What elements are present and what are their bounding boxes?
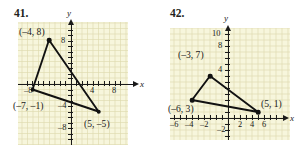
vertex-point-41 [30, 87, 35, 92]
vertex-label-42: (–6, 3) [168, 104, 194, 114]
vertex-point-42 [190, 98, 195, 103]
vertex-label-42: (–3, 7) [178, 50, 204, 60]
vertex-point-41 [47, 38, 52, 43]
vertex-label-42: (5, 1) [261, 99, 282, 109]
problem-42: 42. [154, 0, 308, 155]
triangle-41 [0, 0, 154, 155]
vertex-label-41: (–7, –1) [13, 101, 43, 111]
problem-41: 41. [0, 0, 154, 155]
vertex-label-41: (5, –5) [84, 119, 110, 129]
vertex-point-42 [208, 74, 213, 79]
worksheet-page: 41. [0, 0, 308, 155]
vertex-point-42 [256, 110, 261, 115]
triangle-42 [154, 0, 308, 155]
vertex-point-41 [96, 109, 101, 114]
vertex-label-41: (–4, 8) [19, 27, 45, 37]
